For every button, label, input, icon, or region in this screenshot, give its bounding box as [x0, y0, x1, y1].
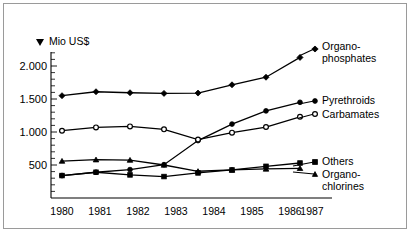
data-point: [229, 82, 235, 88]
series-organo--phosphates: [59, 54, 303, 98]
data-point: [127, 90, 133, 96]
x-tick-label: 1985: [240, 205, 264, 217]
legend-item-others[interactable]: Others: [322, 155, 354, 167]
data-point: [128, 167, 133, 172]
legend: Organo- phosphates Pyrethroids Carbamate…: [322, 40, 379, 192]
legend-item-carbamates[interactable]: Carbamates: [322, 108, 379, 120]
y-axis-label: Mio US$: [49, 35, 89, 47]
leader-organo-phosphates: [299, 49, 314, 56]
data-point: [93, 89, 99, 95]
data-point: [230, 122, 235, 127]
data-point: [60, 128, 65, 133]
leader-organo-chlorines: [293, 172, 314, 174]
x-tick-label: 1983: [164, 205, 188, 217]
x-tick-label: 1980: [50, 205, 74, 217]
series-layer: [59, 54, 303, 178]
legend-markers: [312, 46, 318, 176]
x-axis-tick-labels: 1980 1981 1982 1983 1984 1985 1986 1987: [50, 205, 324, 217]
y-tick-label: 1.500: [19, 93, 47, 105]
x-tick-label: 1982: [126, 205, 150, 217]
legend-leader-lines: [293, 49, 314, 174]
circle-open-icon: [313, 112, 318, 117]
chart-svg: Mio US$: [0, 0, 412, 235]
series-carbamates: [60, 114, 303, 142]
y-axis-minor-ticks: [51, 53, 55, 192]
data-point: [94, 125, 99, 130]
legend-item-organo-chlorines-line2[interactable]: chlorines: [322, 180, 364, 192]
data-point: [128, 173, 133, 178]
square-icon: [313, 160, 318, 165]
x-tick-label: 1981: [88, 205, 112, 217]
data-point: [59, 93, 65, 99]
circle-filled-icon: [313, 99, 318, 104]
data-point: [162, 127, 167, 132]
diamond-icon: [312, 46, 318, 52]
axes: [51, 52, 332, 198]
data-point: [162, 174, 167, 179]
y-axis-label-group: Mio US$: [36, 35, 89, 47]
y-tick-label: 2.000: [19, 60, 47, 72]
legend-item-organo-phosphates-line2[interactable]: phosphates: [322, 52, 376, 64]
data-point: [263, 74, 269, 80]
data-point: [195, 90, 201, 96]
triangle-marker-icon: [36, 39, 44, 46]
y-axis-tick-labels: 2.000 1.500 1.000 500: [19, 60, 47, 171]
data-point: [196, 137, 201, 142]
data-point: [60, 173, 65, 178]
data-point: [161, 90, 167, 96]
data-point: [230, 130, 235, 135]
legend-item-organo-phosphates-line1[interactable]: Organo-: [322, 40, 361, 52]
y-tick-label: 1.000: [19, 126, 47, 138]
legend-item-organo-chlorines-line1[interactable]: Organo-: [322, 168, 361, 180]
x-tick-label: 1986: [278, 205, 302, 217]
x-tick-label: 1984: [202, 205, 226, 217]
legend-item-pyrethroids[interactable]: Pyrethroids: [322, 94, 375, 106]
line-chart: Mio US$: [0, 0, 412, 235]
data-point: [94, 170, 99, 175]
data-point: [128, 124, 133, 129]
y-tick-label: 500: [29, 159, 47, 171]
data-point: [264, 125, 269, 130]
x-tick-label: 1987: [300, 205, 324, 217]
data-point: [264, 108, 269, 113]
y-axis-major-ticks: [51, 66, 57, 165]
